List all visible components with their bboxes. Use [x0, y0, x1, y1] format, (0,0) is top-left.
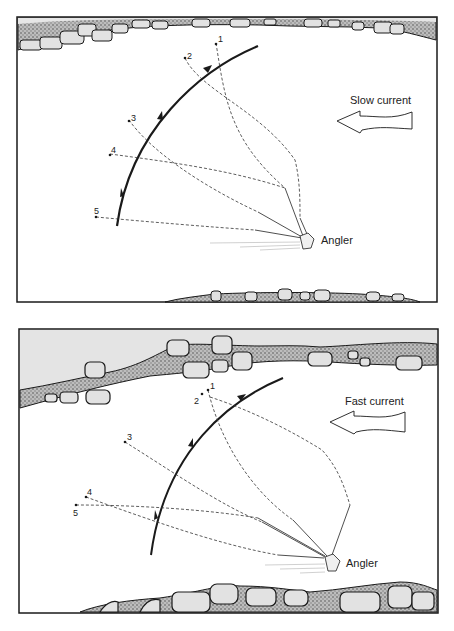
angler-label: Angler	[346, 557, 378, 569]
point-label: 4	[111, 145, 116, 155]
current-label: Fast current	[345, 395, 404, 407]
current-label: Slow current	[350, 94, 411, 106]
drift-diagram: Angler 1 2 3 4 5 Slow current	[0, 0, 454, 631]
point-label: 5	[73, 508, 78, 518]
point-label: 4	[87, 487, 92, 497]
point-label: 1	[210, 381, 215, 391]
point-label: 3	[131, 113, 136, 123]
point-label: 2	[187, 51, 192, 61]
point-label: 3	[127, 432, 132, 442]
angler-label: Angler	[321, 234, 353, 246]
panel-frame	[17, 17, 437, 302]
panel-slow-current: Angler 1 2 3 4 5 Slow current	[17, 17, 437, 302]
point-label: 1	[218, 34, 223, 44]
point-label: 2	[194, 396, 199, 406]
panel-fast-current: Angler 1 2 3 4 5 Fast current	[19, 329, 438, 613]
point-label: 5	[94, 206, 99, 216]
